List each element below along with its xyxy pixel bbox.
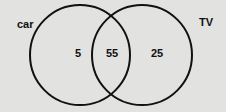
value-intersection: 55 (106, 48, 118, 59)
set-label-car: car (17, 19, 34, 30)
set-label-tv: TV (199, 17, 213, 28)
value-car-only: 5 (75, 48, 81, 59)
value-tv-only: 25 (151, 48, 163, 59)
